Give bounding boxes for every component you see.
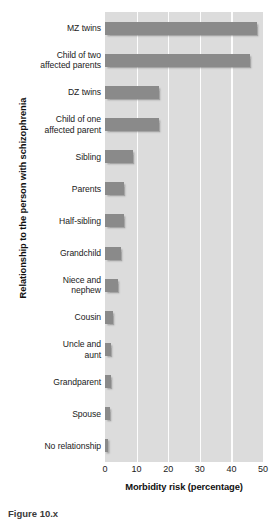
bar [105, 279, 118, 292]
category-label-line: Cousin [0, 312, 101, 322]
category-label-line: aunt [0, 350, 101, 360]
category-axis-labels: MZ twinsChild of twoaffected parentsDZ t… [0, 12, 101, 462]
category-label-line: Child of one [0, 114, 101, 124]
bar [105, 439, 108, 452]
bar [105, 54, 250, 67]
category-label-line: MZ twins [0, 23, 101, 33]
category-label: Cousin [0, 312, 101, 322]
category-label: Niece andnephew [0, 275, 101, 295]
category-label: No relationship [0, 441, 101, 451]
gridline [168, 12, 169, 462]
category-label: Child of oneaffected parent [0, 114, 101, 134]
category-label-line: Child of two [0, 50, 101, 60]
bar [105, 247, 121, 260]
x-tick-label: 10 [124, 464, 150, 474]
category-label: Uncle andaunt [0, 339, 101, 359]
gridline [231, 12, 232, 462]
category-label: Grandparent [0, 377, 101, 387]
category-label-line: Niece and [0, 275, 101, 285]
bar [105, 375, 111, 388]
bar [105, 182, 124, 195]
gridline [200, 12, 201, 462]
category-label-line: affected parents [0, 60, 101, 70]
category-label-line: nephew [0, 285, 101, 295]
x-axis-tick-labels: 01020304050 [0, 464, 270, 478]
figure-caption: Figure 10.x [8, 508, 158, 520]
category-label: MZ twins [0, 23, 101, 33]
category-label: Half-sibling [0, 216, 101, 226]
category-label-line: Spouse [0, 409, 101, 419]
category-label: DZ twins [0, 87, 101, 97]
bar [105, 214, 124, 227]
category-label-line: Grandchild [0, 248, 101, 258]
category-label-line: No relationship [0, 441, 101, 451]
category-label: Spouse [0, 409, 101, 419]
bar [105, 22, 257, 35]
category-label-line: Grandparent [0, 377, 101, 387]
bar [105, 343, 111, 356]
plot-area [105, 12, 263, 462]
figure-caption-text: Figure 10.x [8, 508, 58, 519]
x-tick-label: 30 [187, 464, 213, 474]
category-label-line: Sibling [0, 152, 101, 162]
category-label-line: DZ twins [0, 87, 101, 97]
bar [105, 118, 159, 131]
figure-schizophrenia-morbidity-risk: Relationship to the person with schizoph… [0, 0, 270, 520]
x-tick-label: 40 [218, 464, 244, 474]
x-tick-label: 50 [250, 464, 270, 474]
category-label-line: Parents [0, 184, 101, 194]
category-label: Parents [0, 184, 101, 194]
category-label: Child of twoaffected parents [0, 50, 101, 70]
category-label-line: Half-sibling [0, 216, 101, 226]
gridline [137, 12, 138, 462]
x-tick-label: 0 [92, 464, 118, 474]
category-label: Grandchild [0, 248, 101, 258]
bar [105, 86, 159, 99]
bar [105, 407, 110, 420]
category-label: Sibling [0, 152, 101, 162]
bar [105, 311, 113, 324]
x-axis-title: Morbidity risk (percentage) [105, 481, 263, 492]
x-tick-label: 20 [155, 464, 181, 474]
bar [105, 150, 133, 163]
category-label-line: affected parent [0, 125, 101, 135]
category-label-line: Uncle and [0, 339, 101, 349]
